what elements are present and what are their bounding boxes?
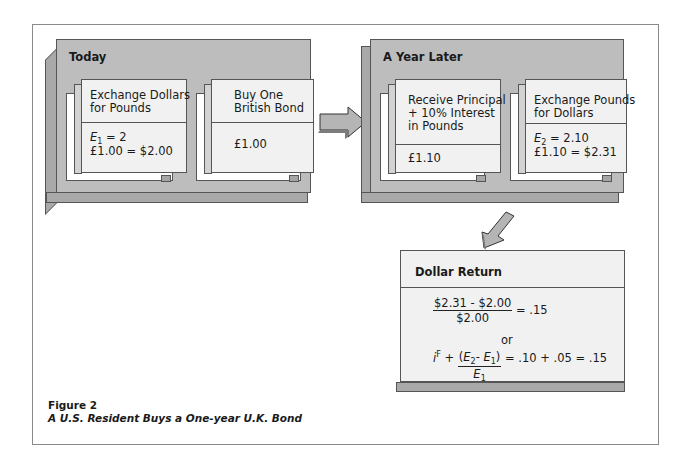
card-tab [161,175,171,182]
card-heading-line2: for Dollars [534,107,594,120]
numerator: (E2- E1) [458,350,502,367]
subscript: 1 [481,375,486,384]
year-later-panel-side [361,46,371,202]
card-divider [526,123,626,124]
denominator: $2.00 [433,311,512,325]
card-heading-line2: for Pounds [90,102,151,115]
card-body-line2: £1.10 = $2.31 [534,146,617,159]
card-heading-line3: in Pounds [408,120,464,133]
denominator: E1 [458,367,502,383]
paren: ) [496,350,501,364]
numerator: $2.31 - $2.00 [433,296,512,311]
exchange-dollars-card: Exchange Dollars for Pounds E1 = 2 £1.00… [81,79,187,173]
figure-caption: Figure 2 A U.S. Resident Buys a One-year… [48,399,302,425]
card-body-line2: £1.10 [408,152,441,165]
card-divider [212,122,313,123]
buy-bond-card: Buy One British Bond £1.00 [211,79,314,173]
card-tab [602,175,612,182]
dollar-return-box: Dollar Return $2.31 - $2.00 $2.00 = .15 … [400,250,625,382]
figure-label: Figure 2 [48,399,302,412]
value: = 2.10 [546,131,589,145]
var-e: E [483,350,490,364]
exchange-pounds-card: Exchange Pounds for Dollars E2 = 2.10 £1… [525,79,627,173]
var-e: E [463,350,470,364]
figure-title: A U.S. Resident Buys a One-year U.K. Bon… [48,412,302,425]
down-left-arrow-icon [474,210,516,252]
card-tab [289,175,299,182]
value: = 2 [102,130,126,144]
equation-1: $2.31 - $2.00 $2.00 = .15 [433,296,548,325]
card-tab [476,175,486,182]
card-divider [82,122,186,123]
card-heading-line2: British Bond [234,102,304,115]
dollar-return-divider [401,287,624,288]
card-body-line2: £1.00 [234,138,267,151]
fraction: $2.31 - $2.00 $2.00 [433,296,512,325]
year-later-title: A Year Later [383,50,462,64]
today-panel-base [46,192,308,203]
today-title: Today [69,50,106,64]
equation-2: iF + (E2- E1) E1 = .10 + .05 = .15 [433,350,607,384]
plus: + [441,351,458,365]
dollar-return-title: Dollar Return [415,265,502,279]
card-body-line2: £1.00 = $2.00 [90,145,173,158]
fraction: (E2- E1) E1 [458,350,502,384]
result: = .15 [516,303,548,317]
year-later-panel-base [361,192,619,203]
var-e: E [473,367,480,381]
result: = .10 + .05 = .15 [505,351,607,365]
receive-principal-card: Receive Principal + 10% Interest in Poun… [395,79,501,173]
card-divider [396,144,500,145]
or-label: or [501,333,513,347]
